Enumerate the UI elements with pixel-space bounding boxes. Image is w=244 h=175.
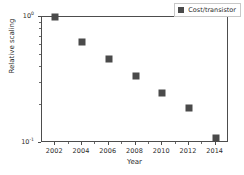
x-tick-mark	[135, 142, 136, 145]
y-minor-tick-mark	[39, 44, 41, 45]
x-tick-label: 2002	[46, 147, 63, 155]
data-point-marker	[52, 14, 59, 21]
y-minor-tick-mark	[39, 82, 41, 83]
y-axis-label: Relative scaling	[8, 1, 16, 91]
data-point-marker	[132, 73, 139, 80]
x-minor-tick-mark	[201, 142, 202, 144]
x-tick-mark	[161, 142, 162, 145]
y-minor-tick-mark	[39, 22, 41, 23]
x-tick-mark	[54, 142, 55, 145]
data-point-marker	[105, 56, 112, 63]
x-tick-label: 2010	[153, 147, 170, 155]
chart-figure: 2002200420062008201020122014 10010-1 Yea…	[0, 0, 244, 175]
y-minor-tick-mark	[39, 28, 41, 29]
data-point-marker	[159, 89, 166, 96]
x-axis-label: Year	[41, 158, 228, 166]
x-tick-mark	[81, 142, 82, 145]
x-minor-tick-mark	[121, 142, 122, 144]
x-minor-tick-mark	[175, 142, 176, 144]
x-tick-label: 2012	[179, 147, 196, 155]
x-tick-label: 2004	[73, 147, 90, 155]
x-minor-tick-mark	[68, 142, 69, 144]
legend-label: Cost/transistor	[188, 6, 236, 14]
x-minor-tick-mark	[148, 142, 149, 144]
y-tick-mark	[38, 142, 41, 143]
x-tick-label: 2008	[126, 147, 143, 155]
plot-area	[41, 16, 228, 142]
legend: Cost/transistor	[174, 3, 241, 17]
y-tick-label: 10-1	[21, 138, 34, 146]
data-point-marker	[185, 104, 192, 111]
x-tick-mark	[215, 142, 216, 145]
x-tick-mark	[108, 142, 109, 145]
y-minor-tick-mark	[39, 36, 41, 37]
x-tick-mark	[188, 142, 189, 145]
y-tick-label: 100	[23, 12, 34, 20]
x-minor-tick-mark	[94, 142, 95, 144]
y-tick-mark	[38, 16, 41, 17]
y-minor-tick-mark	[39, 66, 41, 67]
y-minor-tick-mark	[39, 54, 41, 55]
square-marker-swatch	[178, 7, 184, 13]
y-minor-tick-mark	[39, 104, 41, 105]
x-tick-label: 2014	[206, 147, 223, 155]
x-tick-label: 2006	[99, 147, 116, 155]
data-point-marker	[79, 39, 86, 46]
data-point-marker	[212, 134, 219, 141]
